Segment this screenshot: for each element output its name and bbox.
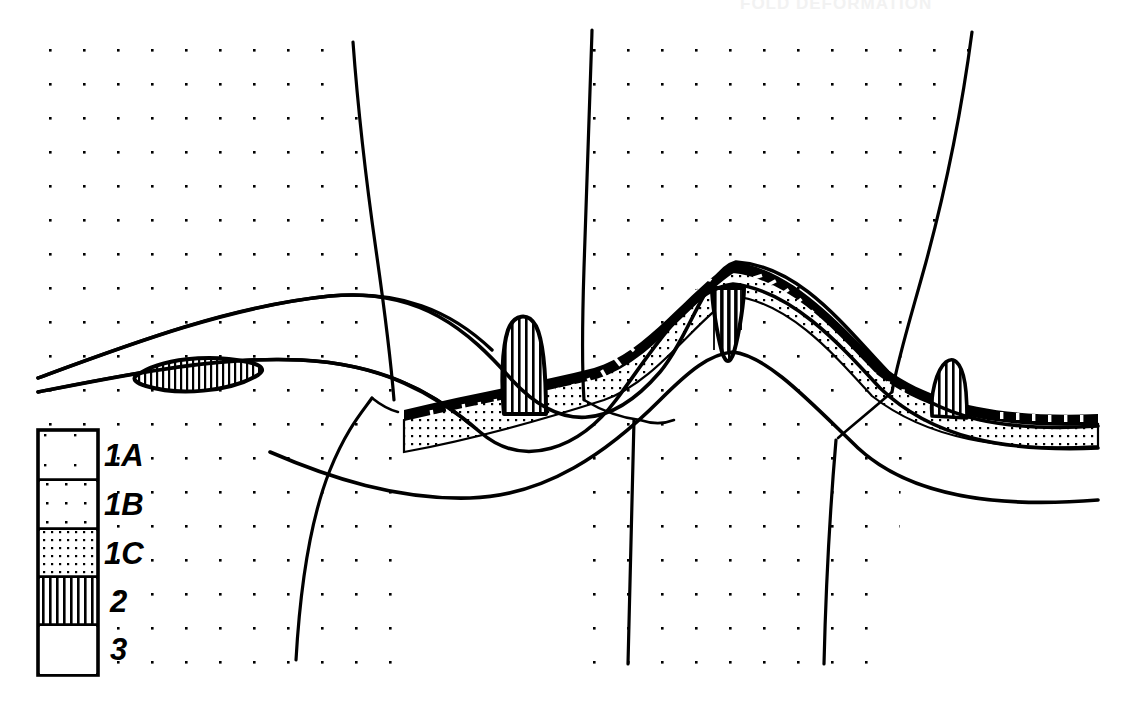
legend-swatch-1c — [38, 530, 98, 577]
legend-label-3: 3 — [110, 634, 127, 665]
legend-swatch-2 — [38, 578, 98, 625]
legend-swatch-3 — [40, 626, 96, 674]
legend-swatch-1b — [38, 481, 98, 529]
legend-label-1c: 1C — [104, 538, 144, 569]
unit-2-left-spire — [502, 317, 546, 414]
legend-label-1b: 1B — [104, 489, 144, 520]
legend-swatch-1a — [38, 432, 98, 480]
legend-label-1a: 1A — [104, 440, 144, 471]
legend-label-2: 2 — [110, 586, 127, 617]
legend-box — [38, 430, 98, 675]
figure-canvas: FOLD DEFORMATION — [0, 0, 1133, 713]
cross-section-drawing — [0, 0, 1133, 713]
